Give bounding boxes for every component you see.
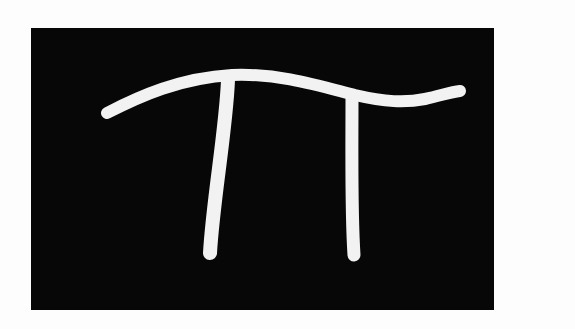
image-canvas: [0, 0, 575, 329]
pi-right-leg: [352, 98, 354, 255]
pi-symbol-icon: [0, 0, 575, 329]
pi-left-leg: [210, 80, 228, 253]
pi-crossbar: [107, 75, 460, 113]
